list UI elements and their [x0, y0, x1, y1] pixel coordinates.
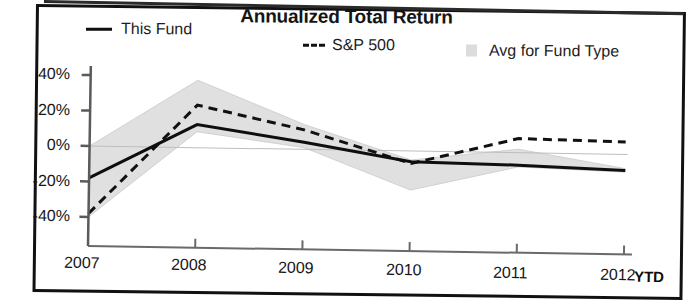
plot-area — [0, 0, 693, 307]
x-axis-tick-label: 2010 — [385, 261, 421, 280]
y-axis-tick-label: -40% — [14, 207, 70, 225]
x-axis-line — [88, 246, 632, 255]
chart-screenshot: Annualized Total Return This Fund S&P 50… — [0, 0, 693, 307]
chart-svg — [0, 0, 693, 307]
x-axis-tick-label: 2011 — [493, 263, 528, 282]
x-axis-tick-label: 2012 — [600, 266, 636, 285]
x-axis-tick-marks — [195, 239, 624, 255]
y-axis-tick-label: 40% — [14, 65, 70, 83]
y-axis-tick-label: 20% — [14, 100, 70, 118]
y-axis-tick-label: 0% — [14, 136, 70, 154]
y-axis-line — [88, 66, 91, 246]
x-axis-tick-label: 2009 — [278, 258, 314, 277]
x-axis-tick-label: 2008 — [171, 256, 207, 275]
x-axis-ytd-label: YTD — [634, 268, 664, 286]
y-axis-tick-label: -20% — [14, 171, 70, 189]
x-axis-tick-label: 2007 — [64, 254, 100, 273]
